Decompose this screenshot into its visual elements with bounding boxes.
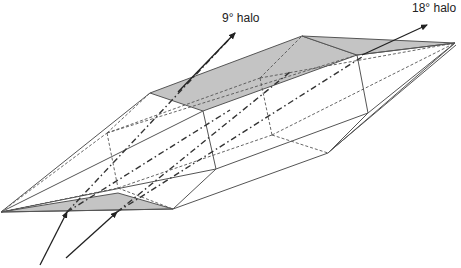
top-prism-face [150, 36, 357, 111]
label-9-degree-halo: 9° halo [222, 11, 260, 25]
label-18-degree-halo: 18° halo [412, 1, 456, 15]
crystal-diagram [0, 0, 461, 268]
hidden-edges [1, 36, 455, 212]
incoming-ray-1 [40, 212, 67, 265]
incoming-ray-2 [66, 212, 117, 258]
